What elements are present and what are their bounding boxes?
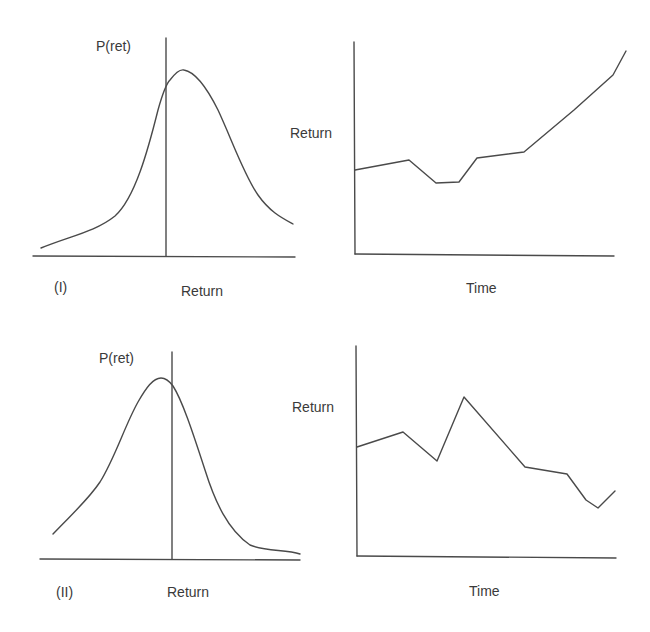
panel-ii-tag: (II): [56, 584, 73, 600]
panel-ii-timeseries: [356, 346, 616, 558]
panel-ii-dist-curve: [53, 378, 300, 554]
panel-i-tag: (I): [54, 279, 67, 295]
panel-i-ts-y-axis: [354, 42, 355, 254]
panel-ii-ts-line: [357, 397, 615, 508]
panel-ii-dist-x-axis: [40, 559, 300, 560]
panel-i-ts-line: [355, 51, 626, 183]
panel-ii-dist-xlabel: Return: [167, 584, 209, 600]
panel-i-dist-xlabel: Return: [181, 283, 223, 299]
panel-ii-distribution: [40, 352, 300, 560]
panel-i-dist-x-axis: [33, 256, 295, 257]
panel-ii-ts-y-axis: [356, 346, 357, 556]
panel-i-ts-ylabel: Return: [290, 125, 332, 141]
panel-i-timeseries: [354, 42, 626, 256]
panel-i-dist-ylabel: P(ret): [96, 38, 131, 54]
figure-canvas: [0, 0, 650, 632]
panel-ii-ts-x-axis: [357, 556, 616, 558]
panel-i-dist-curve: [41, 70, 293, 248]
panel-i-ts-x-axis: [355, 254, 614, 256]
panel-ii-ts-ylabel: Return: [292, 399, 334, 415]
panel-ii-ts-xlabel: Time: [469, 583, 500, 599]
panel-ii-dist-ylabel: P(ret): [99, 350, 134, 366]
panel-i-distribution: [33, 38, 295, 257]
panel-i-ts-xlabel: Time: [466, 280, 497, 296]
